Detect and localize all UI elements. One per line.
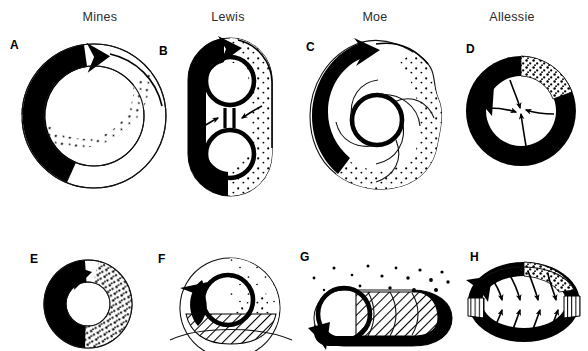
panel-e-diagram (40, 258, 136, 350)
refractory-tail-b (230, 38, 272, 196)
block-zone-right-h (564, 296, 580, 318)
panel-c-diagram (304, 36, 454, 198)
centripetal-arrows-d (488, 80, 554, 146)
column-header-lewis: Lewis (211, 10, 244, 24)
panel-d-diagram (462, 52, 580, 170)
column-header-moe: Moe (362, 10, 387, 24)
column-header-mines: Mines (83, 10, 118, 24)
column-header-allessie: Allessie (489, 10, 534, 24)
block-zone-left-h (468, 298, 484, 318)
panel-a-diagram (14, 36, 174, 196)
panel-g-diagram (300, 262, 458, 351)
reentry-mechanisms-figure: Mines Lewis Moe Allessie A B C D E F G H (0, 0, 588, 351)
block-symbol-b (225, 108, 234, 128)
ring-inner-edge-e (66, 282, 110, 326)
panel-h-diagram (462, 258, 586, 348)
obstacle-upper-b (206, 57, 254, 105)
wavefront-arrowhead-g (308, 322, 330, 350)
panel-f-diagram (160, 256, 300, 351)
panel-b-diagram (166, 36, 294, 198)
panel-letter-e: E (30, 252, 38, 266)
leading-circle-c (352, 95, 402, 145)
refractory-tail-d (521, 56, 572, 99)
